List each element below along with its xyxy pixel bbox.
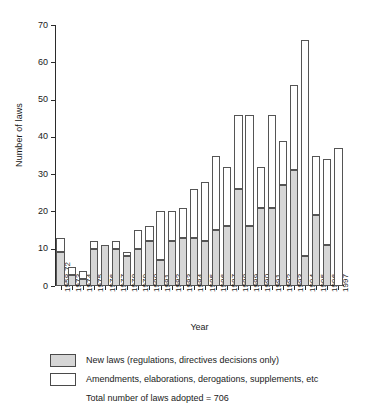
bar-segment-amendments <box>134 230 142 249</box>
x-tick-mark <box>138 286 139 290</box>
legend-item-amendments: Amendments, elaborations, derogations, s… <box>0 371 373 390</box>
x-tick-mark <box>127 286 128 290</box>
legend-swatch-new-laws <box>50 354 76 367</box>
bar-segment-new-laws <box>168 241 176 286</box>
y-tick-label: 10 <box>26 244 48 253</box>
bar-segment-amendments <box>334 148 342 286</box>
bar-segment-amendments <box>156 211 164 259</box>
x-tick-mark <box>338 286 339 290</box>
bar-segment-amendments <box>79 271 87 278</box>
bar-segment-amendments <box>145 226 153 241</box>
x-tick-mark <box>172 286 173 290</box>
y-tick-label: 0 <box>26 282 48 291</box>
bar-segment-new-laws <box>223 226 231 286</box>
y-tick-mark <box>51 286 55 287</box>
bar-segment-new-laws <box>190 238 198 286</box>
bar-segment-new-laws <box>112 249 120 286</box>
bar-group <box>279 25 287 286</box>
bar-segment-new-laws <box>245 226 253 286</box>
bar-segment-new-laws <box>323 245 331 286</box>
y-tick-label: 30 <box>26 170 48 179</box>
bar-group <box>234 25 242 286</box>
bar-group <box>323 25 331 286</box>
bar-segment-amendments <box>68 267 76 274</box>
x-tick-mark <box>149 286 150 290</box>
bar-segment-amendments <box>312 156 320 216</box>
x-tick-mark <box>261 286 262 290</box>
bar-segment-amendments <box>179 208 187 238</box>
x-tick-mark <box>194 286 195 290</box>
legend-total-text: Total number of laws adopted = 706 <box>86 393 229 403</box>
bar-segment-amendments <box>56 238 64 253</box>
bar-group <box>56 25 64 286</box>
x-tick-mark <box>216 286 217 290</box>
bar-segment-amendments <box>201 182 209 242</box>
bar-group <box>190 25 198 286</box>
bar-group <box>112 25 120 286</box>
legend-item-new-laws: New laws (regulations, directives decisi… <box>0 352 373 371</box>
bar-segment-amendments <box>323 159 331 245</box>
x-tick-mark <box>116 286 117 290</box>
bar-group <box>201 25 209 286</box>
bar-group <box>245 25 253 286</box>
bar-segment-new-laws <box>257 208 265 286</box>
x-tick-mark <box>327 286 328 290</box>
x-tick-mark <box>238 286 239 290</box>
x-tick-mark <box>294 286 295 290</box>
legend-label-amendments: Amendments, elaborations, derogations, s… <box>86 374 318 384</box>
bar-segment-new-laws <box>123 256 131 286</box>
y-axis-title: Number of laws <box>14 80 24 190</box>
bar-segment-new-laws <box>301 256 309 286</box>
bar-segment-new-laws <box>156 260 164 286</box>
x-tick-mark <box>305 286 306 290</box>
bar-segment-new-laws <box>134 249 142 286</box>
bar-segment-new-laws <box>290 170 298 286</box>
x-tick-mark <box>316 286 317 290</box>
plot-area <box>55 25 344 286</box>
bar-group <box>123 25 131 286</box>
bar-segment-new-laws <box>212 230 220 286</box>
bar-group <box>90 25 98 286</box>
bar-segment-amendments <box>279 141 287 186</box>
bar-segment-new-laws <box>56 252 64 286</box>
x-tick-mark <box>250 286 251 290</box>
bar-group <box>290 25 298 286</box>
bar-group <box>212 25 220 286</box>
bar-group <box>334 25 342 286</box>
bar-group <box>223 25 231 286</box>
y-tick-label: 20 <box>26 207 48 216</box>
bar-segment-amendments <box>168 211 176 241</box>
x-tick-mark <box>83 286 84 290</box>
y-tick-label: 40 <box>26 132 48 141</box>
chart-figure: Number of laws 010203040506070 1958-7219… <box>0 0 373 413</box>
x-tick-mark <box>272 286 273 290</box>
bar-segment-amendments <box>301 40 309 256</box>
bar-segment-new-laws <box>79 279 87 286</box>
x-tick-mark <box>183 286 184 290</box>
x-tick-mark <box>161 286 162 290</box>
bar-group <box>179 25 187 286</box>
bar-segment-amendments <box>212 156 220 231</box>
y-tick-label: 50 <box>26 95 48 104</box>
bar-segment-amendments <box>245 115 253 227</box>
x-axis-title: Year <box>55 322 344 332</box>
bar-group <box>156 25 164 286</box>
bar-segment-amendments <box>190 189 198 237</box>
x-tick-mark <box>205 286 206 290</box>
chart-legend: New laws (regulations, directives decisi… <box>0 352 373 390</box>
bar-segment-amendments <box>90 241 98 248</box>
bar-group <box>257 25 265 286</box>
x-tick-mark <box>94 286 95 290</box>
bar-group <box>312 25 320 286</box>
legend-swatch-amendments <box>50 373 76 386</box>
legend-label-new-laws: New laws (regulations, directives decisi… <box>86 355 279 365</box>
bar-segment-new-laws <box>179 238 187 286</box>
x-tick-mark <box>283 286 284 290</box>
bar-segment-amendments <box>223 167 231 227</box>
x-tick-mark <box>72 286 73 290</box>
bar-group <box>101 25 109 286</box>
bar-segment-amendments <box>268 115 276 208</box>
bar-group <box>79 25 87 286</box>
bar-segment-amendments <box>123 252 131 256</box>
bar-segment-new-laws <box>101 245 109 286</box>
